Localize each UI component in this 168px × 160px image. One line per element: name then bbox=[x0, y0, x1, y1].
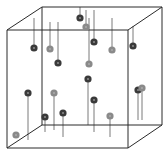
data-point-highlight bbox=[85, 26, 87, 28]
data-points bbox=[12, 14, 145, 138]
cube-edge bbox=[7, 125, 42, 148]
scatter-cube-canvas bbox=[0, 0, 168, 160]
data-point-highlight bbox=[49, 48, 51, 50]
cube-edge bbox=[7, 7, 42, 30]
data-point-highlight bbox=[33, 47, 35, 49]
data-point-highlight bbox=[53, 92, 55, 94]
data-point-highlight bbox=[15, 134, 17, 136]
data-point-highlight bbox=[93, 41, 95, 43]
data-point-highlight bbox=[93, 99, 95, 101]
cube-edge bbox=[128, 125, 162, 148]
data-point-highlight bbox=[44, 116, 46, 118]
data-point-highlight bbox=[79, 17, 81, 19]
data-point-highlight bbox=[87, 78, 89, 80]
data-point-highlight bbox=[88, 63, 90, 65]
data-point-highlight bbox=[141, 87, 143, 89]
data-point-highlight bbox=[27, 92, 29, 94]
cube-edge bbox=[128, 7, 162, 30]
data-point-highlight bbox=[109, 115, 111, 117]
scatter-cube-figure bbox=[0, 0, 168, 160]
data-point-highlight bbox=[132, 45, 134, 47]
data-point-highlight bbox=[57, 62, 59, 64]
data-point-highlight bbox=[111, 49, 113, 51]
data-point-highlight bbox=[62, 112, 64, 114]
